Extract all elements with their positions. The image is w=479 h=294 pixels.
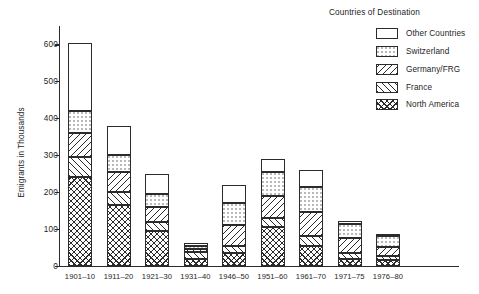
bar-segment-france[interactable]	[145, 222, 169, 231]
bar-1951-60[interactable]	[261, 159, 285, 266]
x-tick-label: 1946–50	[219, 272, 249, 281]
bar-segment-france[interactable]	[376, 256, 400, 260]
bar-chart: Emigrants in Thousands 01002003004005006…	[0, 0, 479, 294]
y-tick-label: 200	[44, 188, 58, 197]
bar-segment-other[interactable]	[376, 234, 400, 236]
y-axis-title: Emigrants in Thousands	[17, 78, 26, 228]
bar-segment-other[interactable]	[184, 243, 208, 246]
bar-segment-switzerland[interactable]	[145, 194, 169, 207]
x-tick-label: 1931–40	[180, 272, 210, 281]
bar-segment-switzerland[interactable]	[299, 187, 323, 213]
bar-segment-northamerica[interactable]	[107, 205, 131, 266]
legend-label: Switzerland	[406, 47, 449, 56]
bar-segment-northamerica[interactable]	[376, 260, 400, 266]
bar-segment-germany[interactable]	[299, 212, 323, 236]
bar-segment-germany[interactable]	[68, 133, 92, 157]
y-tick-label: 100	[44, 225, 58, 234]
bar-segment-northamerica[interactable]	[261, 227, 285, 266]
legend-item-switzerland[interactable]: Switzerland	[376, 45, 465, 59]
x-tick-label: 1921–30	[142, 272, 172, 281]
bar-segment-other[interactable]	[338, 221, 362, 224]
bar-segment-switzerland[interactable]	[376, 236, 400, 246]
bar-1976-80[interactable]	[376, 235, 400, 266]
bar-segment-germany[interactable]	[338, 238, 362, 253]
legend-label: France	[406, 83, 432, 92]
bar-segment-germany[interactable]	[107, 172, 131, 192]
bar-segment-northamerica[interactable]	[145, 231, 169, 266]
bar-segment-france[interactable]	[222, 246, 246, 253]
legend-swatch-icon	[376, 64, 398, 75]
y-tick-label: 500	[44, 77, 58, 86]
legend-item-germany[interactable]: Germany/FRG	[376, 63, 465, 77]
bar-segment-france[interactable]	[68, 157, 92, 177]
bar-segment-northamerica[interactable]	[338, 259, 362, 266]
y-tick-label: 0	[53, 262, 58, 271]
bar-1971-75[interactable]	[338, 221, 362, 266]
legend-swatch-icon	[376, 99, 398, 110]
legend-item-northamerica[interactable]: North America	[376, 98, 465, 112]
legend-label: Germany/FRG	[406, 65, 460, 74]
bar-segment-france[interactable]	[299, 236, 323, 245]
y-tick-label: 600	[44, 40, 58, 49]
bar-segment-france[interactable]	[338, 253, 362, 259]
legend-label: Other Countries	[406, 29, 465, 38]
bar-segment-other[interactable]	[222, 185, 246, 203]
bar-segment-northamerica[interactable]	[222, 253, 246, 266]
bar-segment-switzerland[interactable]	[68, 111, 92, 133]
x-tick-label: 1901–10	[65, 272, 95, 281]
bar-segment-switzerland[interactable]	[184, 246, 208, 250]
legend-label: North America	[406, 100, 459, 109]
bar-segment-switzerland[interactable]	[107, 155, 131, 172]
bar-segment-other[interactable]	[107, 126, 131, 156]
bar-segment-germany[interactable]	[145, 207, 169, 222]
bar-segment-france[interactable]	[184, 252, 208, 258]
legend-item-france[interactable]: France	[376, 80, 465, 94]
x-tick-label: 1951–60	[257, 272, 287, 281]
bar-segment-switzerland[interactable]	[338, 224, 362, 239]
bar-segment-germany[interactable]	[184, 249, 208, 252]
bar-1921-30[interactable]	[145, 174, 169, 266]
bar-segment-france[interactable]	[107, 192, 131, 205]
bar-segment-germany[interactable]	[376, 247, 400, 256]
legend-title: Countries of Destination	[329, 8, 420, 17]
legend-swatch-icon	[376, 46, 398, 57]
x-tick-label: 1961–70	[296, 272, 326, 281]
bar-segment-switzerland[interactable]	[222, 203, 246, 225]
bar-segment-northamerica[interactable]	[184, 259, 208, 266]
bar-segment-france[interactable]	[261, 218, 285, 227]
bar-segment-switzerland[interactable]	[261, 172, 285, 196]
bar-1901-10[interactable]	[68, 43, 92, 266]
x-tick-label: 1971–75	[334, 272, 364, 281]
legend: Other CountriesSwitzerlandGermany/FRGFra…	[376, 27, 465, 116]
legend-swatch-icon	[376, 82, 398, 93]
bar-1931-40[interactable]	[184, 243, 208, 266]
x-tick-label: 1976–80	[373, 272, 403, 281]
bar-segment-germany[interactable]	[261, 196, 285, 218]
bar-segment-northamerica[interactable]	[299, 246, 323, 266]
bar-segment-other[interactable]	[145, 174, 169, 194]
bar-segment-other[interactable]	[68, 43, 92, 111]
bar-segment-other[interactable]	[299, 170, 323, 187]
y-tick-label: 400	[44, 114, 58, 123]
bar-segment-northamerica[interactable]	[68, 177, 92, 266]
legend-swatch-icon	[376, 28, 398, 39]
bar-1946-50[interactable]	[222, 185, 246, 266]
bar-segment-germany[interactable]	[222, 225, 246, 245]
bar-1911-20[interactable]	[107, 126, 131, 266]
bar-segment-other[interactable]	[261, 159, 285, 172]
bar-1961-70[interactable]	[299, 170, 323, 266]
x-tick-label: 1911–20	[104, 272, 134, 281]
legend-item-other[interactable]: Other Countries	[376, 27, 465, 41]
y-tick-label: 300	[44, 151, 58, 160]
